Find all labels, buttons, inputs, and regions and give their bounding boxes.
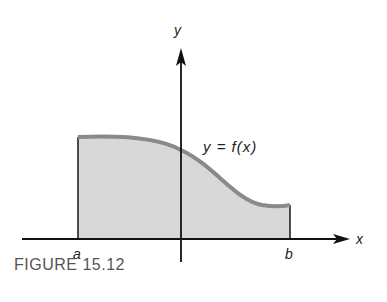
figure-caption: FIGURE 15.12	[14, 256, 125, 274]
y-axis-label: y	[174, 22, 181, 38]
upper-bound-label: b	[285, 246, 293, 262]
x-axis-label: x	[356, 231, 363, 247]
curve-label: y = f(x)	[203, 138, 257, 155]
